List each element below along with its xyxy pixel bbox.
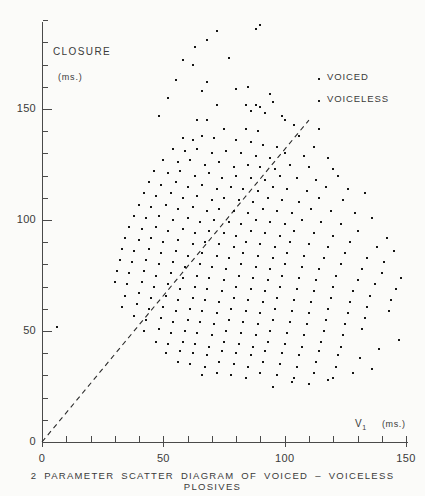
data-point (276, 297, 278, 299)
data-point (175, 79, 177, 81)
data-point (264, 350, 266, 352)
data-point (138, 292, 140, 294)
data-point (274, 246, 276, 248)
data-point (286, 188, 288, 190)
data-point (235, 352, 237, 354)
data-point (366, 306, 368, 308)
data-point (332, 235, 334, 237)
data-point (318, 128, 320, 130)
data-point (245, 310, 247, 312)
data-point (150, 206, 152, 208)
data-point (167, 97, 169, 99)
data-point (177, 239, 179, 241)
data-point (386, 237, 388, 239)
data-point (194, 175, 196, 177)
data-point (223, 197, 225, 199)
data-point (206, 119, 208, 121)
scatter-figure: 050100150050100150 CLOSURE (ms.) V1 (ms.… (0, 0, 425, 496)
data-point (175, 310, 177, 312)
data-point (225, 150, 227, 152)
data-point (255, 334, 257, 336)
data-point (344, 252, 346, 254)
data-point (393, 250, 395, 252)
data-point (291, 381, 293, 383)
data-point (114, 281, 116, 283)
data-point (374, 283, 376, 285)
data-point (235, 175, 237, 177)
data-point (213, 323, 215, 325)
data-point (196, 332, 198, 334)
data-point (189, 308, 191, 310)
data-point (182, 228, 184, 230)
data-point (250, 230, 252, 232)
data-point (165, 295, 167, 297)
legend-marker-icon (318, 78, 320, 80)
data-point (192, 206, 194, 208)
data-point (269, 330, 271, 332)
data-point (162, 306, 164, 308)
data-point (199, 263, 201, 265)
data-point (184, 330, 186, 332)
data-point (252, 277, 254, 279)
data-point (242, 321, 244, 323)
data-point (267, 341, 269, 343)
data-point (279, 235, 281, 237)
data-point (308, 312, 310, 314)
data-point (172, 148, 174, 150)
data-point (230, 308, 232, 310)
figure-caption: 2 PARAMETER SCATTER DIAGRAM OF VOICED – … (0, 470, 425, 492)
data-point (221, 177, 223, 179)
data-point (330, 210, 332, 212)
data-point (284, 119, 286, 121)
data-point (216, 188, 218, 190)
data-point (327, 157, 329, 159)
data-point (308, 243, 310, 245)
data-point (279, 175, 281, 177)
data-point (238, 199, 240, 201)
data-point (247, 366, 249, 368)
data-point (221, 290, 223, 292)
data-point (281, 115, 283, 117)
data-point (233, 166, 235, 168)
data-point (298, 135, 300, 137)
data-point (242, 252, 244, 254)
data-point (131, 261, 133, 263)
data-point (342, 199, 344, 201)
data-point (289, 321, 291, 323)
data-point (250, 141, 252, 143)
data-point (269, 93, 271, 95)
data-point (179, 350, 181, 352)
data-point (155, 275, 157, 277)
data-point (145, 259, 147, 261)
data-point (320, 221, 322, 223)
data-point (245, 128, 247, 130)
data-point (233, 210, 235, 212)
data-point (204, 299, 206, 301)
data-point (298, 354, 300, 356)
data-point (264, 112, 266, 114)
data-point (352, 372, 354, 374)
data-point (150, 297, 152, 299)
data-point (133, 250, 135, 252)
data-point (398, 339, 400, 341)
data-point (228, 57, 230, 59)
data-point (121, 248, 123, 250)
data-point (158, 115, 160, 117)
data-point (177, 161, 179, 163)
data-point (361, 328, 363, 330)
data-point (148, 308, 150, 310)
data-point (133, 215, 135, 217)
data-point (274, 308, 276, 310)
data-point (359, 357, 361, 359)
data-point (293, 299, 295, 301)
data-point (225, 268, 227, 270)
data-point (269, 157, 271, 159)
data-point (284, 343, 286, 345)
data-point (153, 286, 155, 288)
data-point (196, 148, 198, 150)
data-point (213, 219, 215, 221)
data-point (262, 144, 264, 146)
data-point (116, 270, 118, 272)
data-point (264, 290, 266, 292)
data-point (245, 104, 247, 106)
